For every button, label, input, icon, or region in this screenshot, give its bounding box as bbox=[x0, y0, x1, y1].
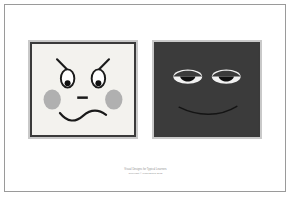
panel-right-frame[interactable] bbox=[152, 40, 262, 139]
panel-left-frame[interactable] bbox=[28, 40, 138, 139]
panel-right-keyline bbox=[154, 42, 260, 137]
caption: Visual Designs for Typical Learners Copy… bbox=[0, 168, 291, 176]
face-sleepy bbox=[156, 44, 258, 135]
face-worried bbox=[32, 44, 134, 135]
cheek-right-blush-icon bbox=[105, 90, 122, 110]
mouth-smile-icon bbox=[179, 106, 237, 114]
mouth-wavy-icon bbox=[60, 111, 106, 121]
eyebrow-left-icon bbox=[57, 59, 67, 69]
cheek-left-blush-icon bbox=[44, 90, 61, 110]
pupil-right-icon bbox=[95, 80, 101, 86]
figure-page: Visual Designs for Typical Learners Copy… bbox=[0, 0, 291, 197]
plate-row bbox=[0, 40, 291, 139]
face-worried-drawing bbox=[32, 44, 134, 135]
caption-copyright: Copyright © Linda Bloom 2012 bbox=[0, 172, 291, 176]
panel-left-keyline bbox=[30, 42, 136, 137]
face-sleepy-drawing bbox=[156, 44, 258, 135]
eyebrow-right-icon bbox=[99, 59, 109, 69]
pupil-left-icon bbox=[65, 80, 71, 86]
